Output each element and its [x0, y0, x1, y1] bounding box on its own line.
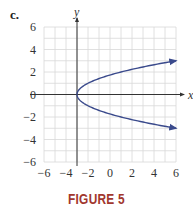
y-tick-label: −6 — [23, 155, 36, 169]
y-axis-label: y — [73, 5, 80, 19]
curve-upper-branch — [77, 61, 176, 95]
x-tick-label: 4 — [151, 166, 157, 180]
curve-lower-branch — [77, 95, 176, 129]
y-tick-label: 6 — [30, 20, 36, 34]
y-tick-label: 2 — [30, 65, 36, 79]
x-tick-label: −4 — [60, 166, 73, 180]
y-tick-label: 4 — [30, 43, 36, 57]
x-axis-label: x — [187, 88, 193, 102]
x-tick-label: 2 — [129, 166, 135, 180]
figure-caption: FIGURE 5 — [14, 191, 178, 207]
x-tick-label: 0 — [107, 166, 113, 180]
x-tick-label: −2 — [82, 166, 95, 180]
x-tick-label: 6 — [173, 166, 179, 180]
y-tick-label: 0 — [30, 88, 36, 102]
y-tick-label: −4 — [23, 133, 36, 147]
x-tick-label: −6 — [38, 166, 51, 180]
y-tick-label: −2 — [23, 110, 36, 124]
chart-plot: xy−6−4−20246−6−4−20246 — [0, 0, 193, 216]
